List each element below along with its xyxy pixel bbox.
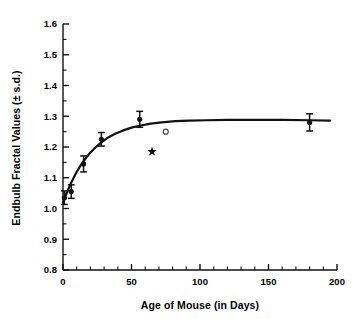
chart-scatter-endbulb-fractal-vs-age: Endbulb Fractal Values (± s.d.) Age of M… bbox=[0, 0, 358, 319]
data-point-filled-circle bbox=[81, 161, 86, 166]
y-axis-tick-label: 0.8 bbox=[44, 264, 57, 275]
x-axis-tick-label: 0 bbox=[60, 276, 65, 287]
y-axis-title-text: Endbulb Fractal Values (± s.d.) bbox=[10, 70, 22, 225]
data-point-open-circle bbox=[163, 129, 168, 134]
y-axis-tick-label: 1.0 bbox=[44, 203, 57, 214]
data-point-star bbox=[147, 147, 157, 156]
y-axis-title: Endbulb Fractal Values (± s.d.) bbox=[10, 70, 22, 225]
x-axis-tick-label: 100 bbox=[192, 276, 208, 287]
data-point-filled-circle bbox=[137, 117, 142, 122]
figure-container: Endbulb Fractal Values (± s.d.) Age of M… bbox=[0, 0, 358, 319]
x-axis-title: Age of Mouse (in Days) bbox=[141, 299, 259, 311]
y-axis-ticks: 0.80.91.01.11.21.31.41.51.6 bbox=[44, 18, 69, 275]
axis-lines bbox=[63, 24, 337, 270]
y-axis-tick-label: 1.2 bbox=[44, 141, 57, 152]
x-axis-title-text: Age of Mouse (in Days) bbox=[141, 299, 259, 311]
x-axis-tick-label: 50 bbox=[126, 276, 137, 287]
y-axis-tick-label: 1.4 bbox=[44, 80, 58, 91]
data-point-filled-circle bbox=[307, 120, 312, 125]
data-points bbox=[62, 117, 312, 201]
data-point-filled-circle bbox=[99, 137, 104, 142]
y-axis-tick-label: 0.9 bbox=[44, 234, 57, 245]
y-axis-tick-label: 1.3 bbox=[44, 111, 57, 122]
data-point-filled-circle bbox=[62, 195, 67, 200]
y-axis-tick-label: 1.6 bbox=[44, 18, 57, 29]
x-axis-tick-label: 150 bbox=[261, 276, 277, 287]
y-axis-tick-label: 1.5 bbox=[44, 49, 58, 60]
x-axis-ticks: 050100150200 bbox=[60, 264, 345, 287]
data-point-filled-circle bbox=[69, 189, 74, 194]
error-bars bbox=[61, 111, 313, 204]
x-axis-tick-label: 200 bbox=[329, 276, 345, 287]
y-axis-tick-label: 1.1 bbox=[44, 172, 58, 183]
